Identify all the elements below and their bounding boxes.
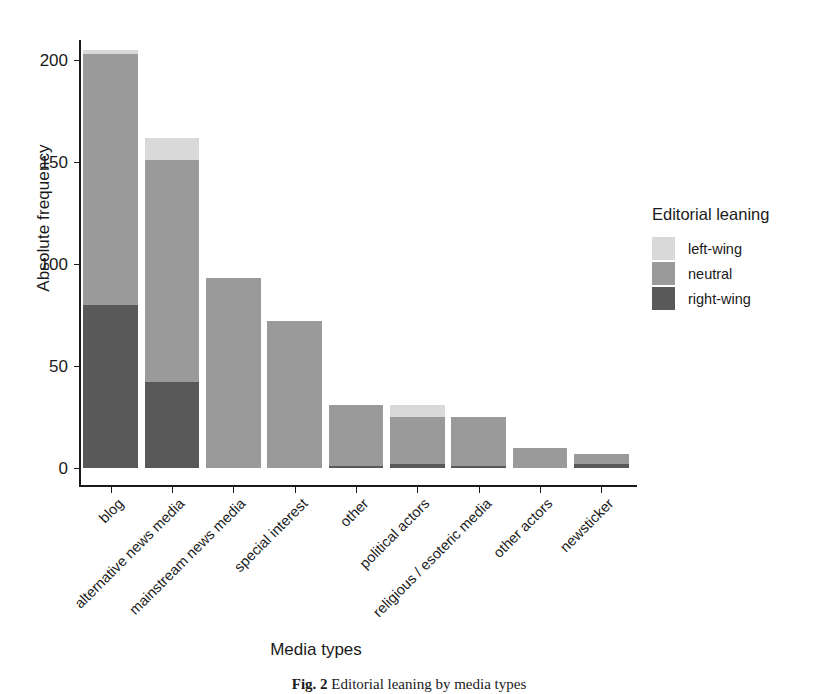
y-tick-label: 100 [28,256,68,273]
bar-stack[interactable] [83,50,138,468]
plot-area [80,40,632,468]
bar-segment-right-wing[interactable] [83,305,138,468]
y-tick-mark [74,366,79,367]
figure-caption: Fig. 2 Editorial leaning by media types [0,676,818,693]
bar-segment-left-wing[interactable] [145,138,200,160]
bar-stack[interactable] [513,448,568,468]
bar-stack[interactable] [451,417,506,468]
bar-stack[interactable] [574,454,629,468]
bar-segment-right-wing[interactable] [145,382,200,468]
x-tick-label: newsticker [558,496,617,555]
x-tick-mark [295,487,296,493]
x-tick-mark [111,487,112,493]
legend-label: left-wing [688,241,742,257]
y-tick-label: 0 [28,460,68,477]
bar-segment-right-wing[interactable] [574,464,629,468]
y-tick-label: 150 [28,154,68,171]
legend-item[interactable]: right-wing [652,286,769,311]
bar-segment-neutral[interactable] [329,405,384,466]
y-tick-mark [74,162,79,163]
bar-segment-neutral[interactable] [451,417,506,466]
bar-segment-neutral[interactable] [390,417,445,464]
x-tick-mark [479,487,480,493]
x-tick-label: religious / esoteric media [370,496,494,620]
bar-stack[interactable] [267,321,322,468]
y-axis-title: Absolute frequency [34,88,54,348]
legend-label: neutral [688,266,732,282]
bar-segment-neutral[interactable] [206,278,261,468]
y-tick-mark [74,468,79,469]
legend-items: left-wingneutralright-wing [652,236,769,311]
x-tick-mark [233,487,234,493]
bar-segment-neutral[interactable] [513,448,568,468]
y-tick-label: 200 [28,52,68,69]
legend: Editorial leaning left-wingneutralright-… [652,205,769,311]
bar-stack[interactable] [329,405,384,468]
x-tick-label: other actors [491,496,555,560]
y-tick-mark [74,264,79,265]
legend-swatch-right-wing [652,287,675,310]
bar-segment-right-wing[interactable] [329,466,384,468]
legend-label: right-wing [688,291,751,307]
x-tick-label: other [338,496,372,530]
figure-container: Absolute frequency 050100150200 blogalte… [0,0,818,694]
legend-swatch-left-wing [652,237,675,260]
bar-segment-left-wing[interactable] [390,405,445,417]
bar-stack[interactable] [390,405,445,468]
x-axis-line [79,485,637,487]
x-tick-mark [540,487,541,493]
bar-segment-right-wing[interactable] [390,464,445,468]
x-tick-mark [356,487,357,493]
bar-segment-neutral[interactable] [145,160,200,382]
legend-title: Editorial leaning [652,205,769,224]
bar-segment-neutral[interactable] [267,321,322,468]
legend-item[interactable]: left-wing [652,236,769,261]
legend-item[interactable]: neutral [652,261,769,286]
x-tick-label: alternative news media [72,496,187,611]
x-axis-title: Media types [0,640,632,660]
bar-stack[interactable] [206,278,261,468]
bar-segment-neutral[interactable] [574,454,629,464]
x-tick-label: blog [96,496,126,526]
x-tick-mark [172,487,173,493]
legend-swatch-neutral [652,262,675,285]
caption-text: Editorial leaning by media types [331,676,526,692]
y-tick-label: 50 [28,358,68,375]
caption-label: Fig. 2 [292,676,328,692]
y-tick-mark [74,60,79,61]
bar-stack[interactable] [145,138,200,468]
x-tick-mark [601,487,602,493]
x-tick-mark [417,487,418,493]
bar-segment-neutral[interactable] [83,54,138,305]
bar-segment-right-wing[interactable] [451,466,506,468]
x-tick-label: mainstream news media [127,496,248,617]
